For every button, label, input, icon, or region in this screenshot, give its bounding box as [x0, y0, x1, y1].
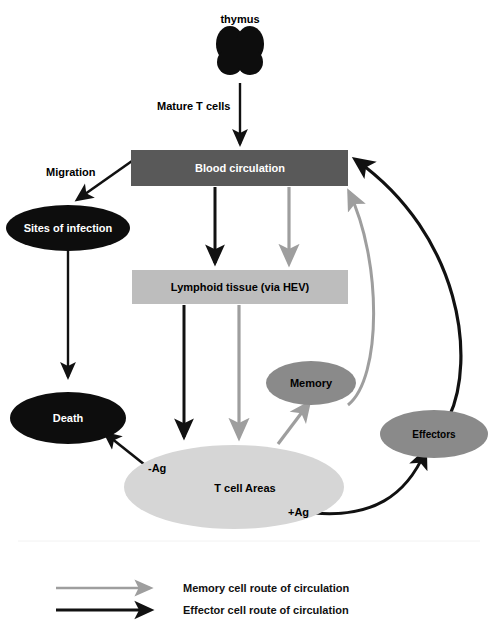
- node-lymphoid-tissue: Lymphoid tissue (via HEV): [132, 270, 348, 304]
- legend-label-memory-route: Memory cell route of circulation: [183, 582, 350, 594]
- edge-label-mature-t-cells: Mature T cells: [157, 100, 230, 112]
- node-memory-label: Memory: [290, 377, 333, 389]
- thymus-icon: [216, 26, 264, 75]
- node-blood-circulation: Blood circulation: [131, 150, 348, 186]
- node-memory: Memory: [266, 361, 356, 405]
- node-death-label: Death: [53, 412, 84, 424]
- node-effectors-label: Effectors: [412, 429, 456, 440]
- node-sites-of-infection: Sites of infection: [6, 205, 130, 251]
- node-lymphoid-tissue-label: Lymphoid tissue (via HEV): [171, 281, 310, 293]
- legend-item-memory-route: Memory cell route of circulation: [56, 582, 350, 594]
- edge-tcell-to-death: [106, 434, 145, 465]
- legend-label-effector-route: Effector cell route of circulation: [183, 604, 349, 616]
- legend-item-effector-route: Effector cell route of circulation: [56, 604, 349, 616]
- legend: Memory cell route of circulation Effecto…: [56, 582, 350, 616]
- node-thymus: thymus: [216, 13, 264, 75]
- edge-label-minus-ag: -Ag: [148, 462, 166, 474]
- node-blood-circulation-label: Blood circulation: [195, 162, 285, 174]
- node-death: Death: [10, 392, 126, 444]
- immune-cell-circulation-diagram: thymus Mature T cells Migration Blood ci…: [0, 0, 498, 623]
- edge-memory-to-blood: [348, 192, 374, 405]
- node-t-cell-areas: T cell Areas -Ag +Ag: [124, 445, 344, 529]
- thymus-label: thymus: [220, 13, 259, 25]
- diagram-canvas: thymus Mature T cells Migration Blood ci…: [0, 0, 498, 623]
- edge-tcell-to-memory: [278, 403, 309, 444]
- node-t-cell-areas-label: T cell Areas: [214, 482, 275, 494]
- node-effectors: Effectors: [380, 410, 488, 458]
- node-sites-of-infection-label: Sites of infection: [24, 222, 113, 234]
- edge-label-plus-ag: +Ag: [288, 506, 309, 518]
- edge-label-migration: Migration: [46, 166, 96, 178]
